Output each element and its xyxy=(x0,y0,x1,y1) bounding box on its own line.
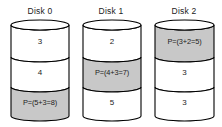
disk-2-block-2: 3 xyxy=(155,87,214,121)
disk-2-block-1: 3 xyxy=(155,57,214,92)
disk-cylinder-0: 3 4 P=(5+3=8) xyxy=(10,19,70,123)
disk-title-0: Disk 0 xyxy=(11,6,69,16)
disk-cylinder-2: P=(3+2=5) 3 3 xyxy=(154,19,215,123)
disk-1-block-0-label: 2 xyxy=(110,37,115,46)
disk-1-block-2: 5 xyxy=(83,87,141,121)
disk-0-block-2-label: P=(5+3=8) xyxy=(23,98,57,107)
raid-parity-diagram: Disk 0 3 4 P=(5+3=8) Disk 1 2 P=(4+3=7) xyxy=(0,0,222,127)
disk-1-block-2-label: 5 xyxy=(110,98,115,107)
disk-0-block-1: 4 xyxy=(11,57,69,92)
disk-1-top-cap xyxy=(83,20,141,30)
disk-0-block-1-label: 4 xyxy=(38,68,43,77)
disk-2-top-cap xyxy=(155,20,214,30)
disk-title-2: Disk 2 xyxy=(154,6,214,16)
disk-title-1: Disk 1 xyxy=(82,6,140,16)
disk-1-block-1-label: P=(4+3=7) xyxy=(95,68,129,77)
disk-0-block-0-label: 3 xyxy=(38,37,43,46)
disk-1-block-1: P=(4+3=7) xyxy=(83,57,141,92)
disk-0-top-cap xyxy=(11,20,69,30)
disk-0-block-2: P=(5+3=8) xyxy=(11,87,69,121)
disk-2-block-0-label: P=(3+2=5) xyxy=(167,37,201,46)
disk-2-block-1-label: 3 xyxy=(182,68,187,77)
disk-cylinder-1: 2 P=(4+3=7) 5 xyxy=(82,19,142,123)
disk-2-block-2-label: 3 xyxy=(182,98,187,107)
